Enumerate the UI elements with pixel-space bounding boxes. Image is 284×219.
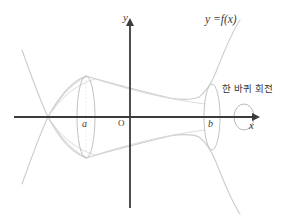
solid-of-revolution-diagram (0, 0, 284, 219)
point-a-label: a (82, 119, 87, 129)
point-b-label: b (208, 119, 213, 129)
rotation-note-label: 한 바퀴 회전 (222, 84, 273, 94)
origin-label: O (118, 119, 125, 128)
curve-upper-branch (22, 20, 240, 117)
curve-lower-branch (22, 117, 240, 214)
y-axis-label: y (123, 12, 128, 23)
surface-outline-left-top (48, 77, 86, 117)
function-label: y =f(x) (205, 14, 237, 26)
figure-container: y =f(x) y x O a b 한 바퀴 회전 (0, 0, 284, 219)
x-axis-label: x (249, 120, 254, 131)
surface-outline-left-bottom (48, 117, 86, 157)
